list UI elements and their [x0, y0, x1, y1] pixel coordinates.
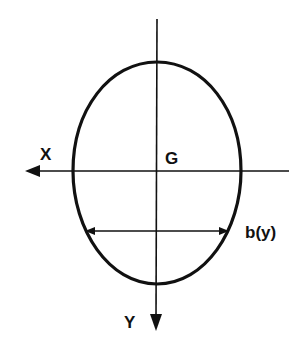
x-axis-label: X	[40, 145, 52, 164]
cross-section-diagram: X G b(y) Y	[0, 0, 302, 340]
x-axis-arrow-icon	[25, 165, 40, 177]
centroid-label: G	[165, 149, 178, 168]
y-axis-arrow-icon	[150, 314, 162, 331]
y-axis-line	[156, 19, 157, 318]
y-axis-label: Y	[124, 313, 136, 332]
width-label: b(y)	[245, 223, 276, 242]
